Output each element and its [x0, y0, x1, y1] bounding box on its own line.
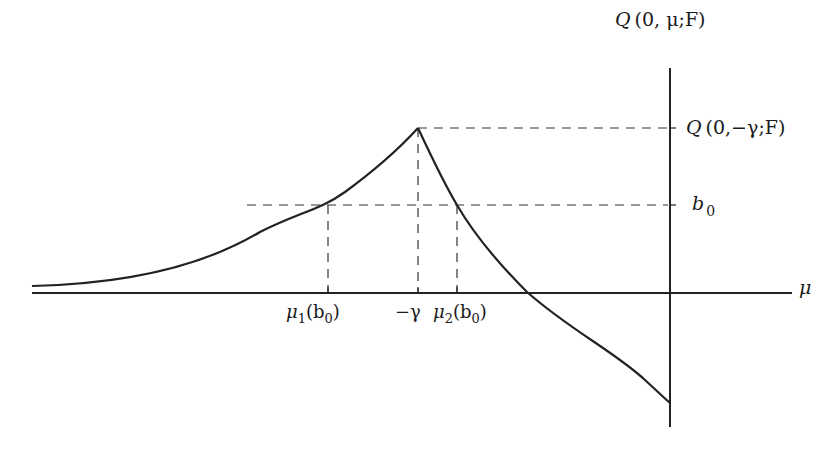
- y-tick-b0-label: b0: [692, 192, 715, 219]
- y-axis-title: Q(0, μ;F): [615, 8, 706, 30]
- q-curve-rising: [32, 128, 418, 286]
- x-axis-title: μ: [799, 276, 811, 298]
- y-tick-peak-label: Q(0,−γ;F): [686, 116, 785, 138]
- diagram-svg: Q(0, μ;F) μ Q(0,−γ;F) b0 μ1(b0) −γ μ2(b0…: [0, 0, 836, 454]
- x-tick-mu1-label: μ1(b0): [286, 301, 340, 326]
- diagram-canvas: Q(0, μ;F) μ Q(0,−γ;F) b0 μ1(b0) −γ μ2(b0…: [0, 0, 836, 454]
- tick-marks: [328, 128, 676, 293]
- x-tick-gamma-label: −γ: [395, 301, 421, 322]
- x-tick-mu2-label: μ2(b0): [433, 301, 487, 326]
- q-curve-falling: [418, 128, 670, 403]
